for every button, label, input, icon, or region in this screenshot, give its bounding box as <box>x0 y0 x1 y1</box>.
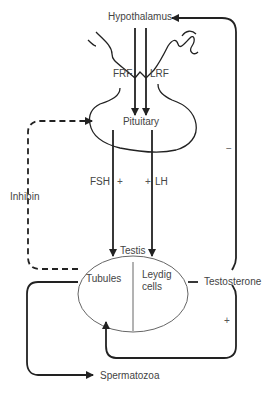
lrf-label: LRF <box>150 68 169 79</box>
fsh-label: FSH <box>90 176 110 187</box>
diagram-canvas: Hypothalamus FRF LRF Pituitary FSH + + L… <box>0 0 277 394</box>
hypothalamus-structure <box>88 31 198 78</box>
tubules-label: Tubules <box>86 273 121 284</box>
testosterone-positive-sign: + <box>224 315 230 326</box>
leydig-label-line2: cells <box>142 281 162 292</box>
testis-ellipse <box>78 256 188 332</box>
testosterone-negative-sign: − <box>226 143 232 154</box>
testis-label: Testis <box>120 245 146 256</box>
hypothalamus-label: Hypothalamus <box>108 11 172 22</box>
pituitary-label: Pituitary <box>123 116 159 127</box>
lh-label: LH <box>155 176 168 187</box>
spermatozoa-label: Spermatozoa <box>100 370 160 381</box>
testosterone-label: Testosterone <box>204 276 262 287</box>
fsh-sign: + <box>117 176 123 187</box>
spermatozoa-arrow <box>27 282 93 375</box>
frf-label: FRF <box>113 68 132 79</box>
leydig-label-line1: Leydig <box>142 269 171 280</box>
lh-sign: + <box>145 176 151 187</box>
diagram-svg: Hypothalamus FRF LRF Pituitary FSH + + L… <box>0 0 277 394</box>
inhibin-label: Inhibin <box>10 191 39 202</box>
